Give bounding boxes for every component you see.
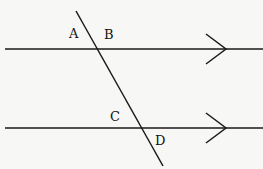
diagram-svg: A B C D: [0, 0, 263, 169]
angle-label-b: B: [104, 27, 114, 42]
angle-label-c: C: [110, 109, 120, 124]
diagram-canvas: A B C D: [0, 0, 263, 169]
transversal-line: [76, 11, 163, 166]
angle-label-d: D: [155, 133, 165, 148]
angle-label-a: A: [68, 26, 79, 41]
